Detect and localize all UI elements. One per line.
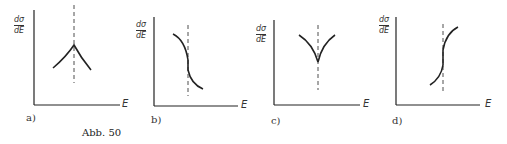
panel-b-x-label: E xyxy=(241,99,247,110)
panel-c-label: c) xyxy=(271,115,281,126)
panel-a-curve xyxy=(53,45,91,70)
panel-c-plot xyxy=(274,20,360,105)
y-label-denominator: dE xyxy=(136,31,146,40)
panel-d-plot xyxy=(396,17,480,105)
panel-d-y-label: dσ dE xyxy=(379,16,389,35)
panel-d-x-label: E xyxy=(485,98,491,109)
panel-b-label: b) xyxy=(151,114,161,125)
panel-c-y-label: dσ dE xyxy=(256,25,266,44)
y-label-numerator: dσ xyxy=(14,16,24,26)
panel-c-x-label: E xyxy=(363,98,369,109)
panel-a-label: a) xyxy=(26,112,36,123)
panel-d-curve xyxy=(430,27,458,85)
panel-a-y-label: dσ dE xyxy=(14,16,24,35)
panel-b-y-label: dσ dE xyxy=(136,21,146,40)
y-label-denominator: dE xyxy=(14,26,24,35)
y-label-denominator: dE xyxy=(256,35,266,44)
panel-c-curve xyxy=(299,35,335,62)
figure-canvas xyxy=(0,0,507,144)
y-label-numerator: dσ xyxy=(256,25,266,35)
y-label-numerator: dσ xyxy=(379,16,389,26)
y-label-numerator: dσ xyxy=(136,21,146,31)
panel-d-label: d) xyxy=(392,115,402,126)
panel-a-plot xyxy=(34,5,120,105)
y-label-denominator: dE xyxy=(379,26,389,35)
figure-caption: Abb. 50 xyxy=(82,127,121,138)
panel-b-plot xyxy=(154,17,238,106)
panel-a-x-label: E xyxy=(122,98,128,109)
